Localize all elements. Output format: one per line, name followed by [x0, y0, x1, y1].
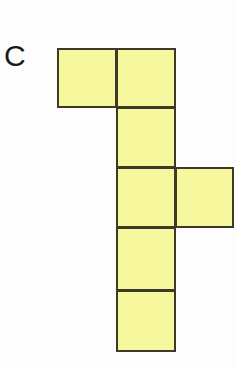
cube-net-shape: [0, 0, 238, 368]
square-r4c1: [116, 290, 176, 352]
square-r0c0: [57, 48, 117, 108]
square-r2c1: [116, 167, 176, 228]
figure-canvas: C: [0, 0, 238, 368]
square-r3c1: [116, 227, 176, 291]
square-r1c1: [116, 107, 176, 168]
square-r2c2: [175, 167, 234, 228]
square-r0c1: [116, 48, 176, 108]
